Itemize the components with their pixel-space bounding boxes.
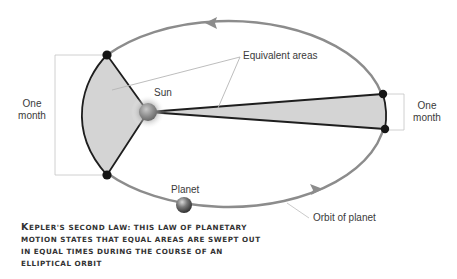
sun-label: Sun	[154, 87, 172, 98]
orbit-arrow-bottom-icon	[310, 184, 323, 195]
position-dot-top-right	[379, 90, 387, 98]
leader-line-left-area	[112, 57, 240, 90]
left-duration-label-line2: month	[18, 110, 46, 121]
leader-line-orbit	[287, 203, 309, 218]
position-dot-bottom-right	[381, 125, 389, 133]
planet-icon	[176, 197, 192, 213]
position-dot-top-left	[102, 50, 111, 59]
position-dot-bottom-left	[102, 170, 111, 179]
kepler-diagram: Equivalent areas Sun Planet Orbit of pla…	[0, 0, 457, 279]
right-duration-label-line2: month	[413, 112, 441, 123]
planet-label: Planet	[171, 184, 200, 195]
left-duration-label-line1: One	[23, 98, 42, 109]
leader-line-right-area	[218, 57, 240, 108]
right-swept-area	[148, 94, 386, 129]
orbit-arrow-top-icon	[205, 17, 217, 29]
caption-text: epler's second law: this law of planetar…	[21, 223, 261, 268]
equivalent-areas-label: Equivalent areas	[243, 50, 318, 61]
figure-caption: Kepler's second law: this law of planeta…	[21, 221, 261, 270]
orbit-label: Orbit of planet	[313, 212, 376, 223]
sun-icon	[131, 95, 165, 129]
caption-first-letter: K	[21, 221, 29, 232]
right-duration-label-line1: One	[418, 100, 437, 111]
